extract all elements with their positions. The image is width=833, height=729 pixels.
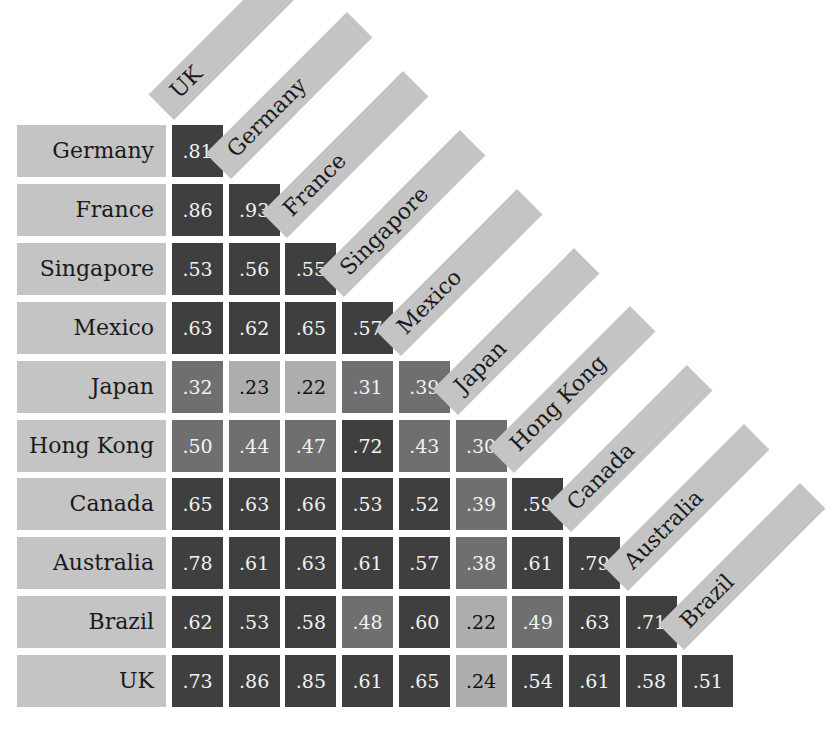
matrix-cell: .61 <box>512 537 563 589</box>
matrix-cell: .48 <box>342 596 393 648</box>
matrix-cell: .38 <box>456 537 507 589</box>
matrix-cell: .53 <box>229 596 280 648</box>
matrix-cell: .24 <box>456 655 507 707</box>
matrix-cell: .63 <box>229 478 280 530</box>
matrix-cell: .65 <box>399 655 450 707</box>
matrix-cell: .86 <box>229 655 280 707</box>
row-label: Singapore <box>17 243 166 295</box>
matrix-cell: .62 <box>172 596 223 648</box>
matrix-cell: .57 <box>399 537 450 589</box>
row-label: UK <box>17 655 166 707</box>
matrix-cell: .58 <box>285 596 336 648</box>
matrix-cell: .72 <box>342 420 393 472</box>
matrix-cell: .78 <box>172 537 223 589</box>
matrix-cell: .51 <box>682 655 733 707</box>
matrix-cell: .61 <box>342 655 393 707</box>
row-label: Germany <box>17 125 166 177</box>
matrix-cell: .63 <box>172 302 223 354</box>
matrix-cell: .63 <box>285 537 336 589</box>
matrix-cell: .22 <box>456 596 507 648</box>
row-label: France <box>17 184 166 236</box>
row-label: Mexico <box>17 302 166 354</box>
matrix-cell: .49 <box>512 596 563 648</box>
matrix-cell: .53 <box>342 478 393 530</box>
matrix-cell: .23 <box>229 361 280 413</box>
matrix-cell: .31 <box>342 361 393 413</box>
matrix-cell: .43 <box>399 420 450 472</box>
matrix-cell: .53 <box>172 243 223 295</box>
matrix-cell: .61 <box>569 655 620 707</box>
matrix-cell: .63 <box>569 596 620 648</box>
matrix-cell: .44 <box>229 420 280 472</box>
matrix-cell: .58 <box>626 655 677 707</box>
matrix-cell: .66 <box>285 478 336 530</box>
matrix-cell: .65 <box>285 302 336 354</box>
row-label: Canada <box>17 478 166 530</box>
matrix-cell: .50 <box>172 420 223 472</box>
matrix-cell: .61 <box>342 537 393 589</box>
correlation-matrix: Germany.81France.86.93Singapore.53.56.55… <box>0 0 833 729</box>
row-label: Brazil <box>17 596 166 648</box>
matrix-cell: .47 <box>285 420 336 472</box>
matrix-cell: .86 <box>172 184 223 236</box>
matrix-cell: .85 <box>285 655 336 707</box>
matrix-cell: .22 <box>285 361 336 413</box>
matrix-cell: .39 <box>456 478 507 530</box>
matrix-cell: .60 <box>399 596 450 648</box>
matrix-cell: .62 <box>229 302 280 354</box>
row-label: Hong Kong <box>17 420 166 472</box>
row-label: Japan <box>17 361 166 413</box>
matrix-cell: .54 <box>512 655 563 707</box>
matrix-cell: .32 <box>172 361 223 413</box>
matrix-cell: .52 <box>399 478 450 530</box>
matrix-cell: .61 <box>229 537 280 589</box>
matrix-cell: .65 <box>172 478 223 530</box>
matrix-cell: .73 <box>172 655 223 707</box>
row-label: Australia <box>17 537 166 589</box>
matrix-cell: .56 <box>229 243 280 295</box>
